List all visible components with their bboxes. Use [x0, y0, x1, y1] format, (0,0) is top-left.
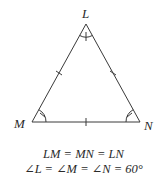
caption-angle-equality: ∠L = ∠M = ∠N = 60° [0, 162, 167, 176]
angle-arc-n [126, 110, 133, 122]
angle-arc-m [39, 110, 46, 122]
caption-side-equality: LM = MN = LN [0, 147, 167, 161]
vertex-label-n: N [143, 118, 154, 133]
vertex-label-m: M [13, 116, 26, 131]
tick-lm [56, 71, 62, 75]
vertex-label-l: L [81, 6, 89, 21]
tick-ln [110, 71, 116, 75]
